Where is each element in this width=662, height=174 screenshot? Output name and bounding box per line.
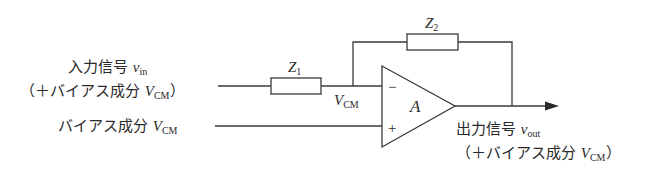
output-bias-prefix: （＋バイアス成分 — [456, 144, 581, 162]
bias-label: バイアス成分 VCM — [58, 117, 178, 136]
svg-text:入力信号 vin: 入力信号 vin — [68, 58, 147, 77]
svg-text:バイアス成分 VCM: バイアス成分 VCM — [58, 117, 178, 136]
feedback-right-wire — [458, 42, 512, 106]
input-signal-label: 入力信号 vin （＋バイアス成分 VCM） — [20, 58, 185, 101]
svg-text:（＋バイアス成分 VCM）: （＋バイアス成分 VCM） — [20, 82, 185, 101]
z2-impedance — [407, 34, 458, 50]
input-bias-prefix: （＋バイアス成分 — [20, 82, 145, 100]
z2-label: Z2 — [425, 15, 438, 33]
op-amp-circuit-diagram: 入力信号 vin （＋バイアス成分 VCM） バイアス成分 VCM Z1 Z2 … — [0, 0, 662, 174]
svg-text:出力信号 vout: 出力信号 vout — [456, 120, 540, 139]
svg-text:（＋バイアス成分 VCM）: （＋バイアス成分 VCM） — [456, 144, 621, 163]
z1-impedance — [271, 78, 321, 94]
output-arrow-icon — [545, 102, 559, 111]
z1-label: Z1 — [288, 59, 301, 77]
output-signal-label: 出力信号 vout （＋バイアス成分 VCM） — [456, 120, 621, 163]
node-vcm-label: VCM — [334, 92, 359, 110]
output-signal-text: 出力信号 — [456, 120, 521, 138]
bias-text: バイアス成分 — [58, 117, 153, 135]
plus-input-symbol: + — [388, 120, 396, 136]
input-signal-text: 入力信号 — [68, 58, 133, 76]
minus-input-symbol: − — [388, 79, 396, 95]
amp-gain-label: A — [409, 97, 421, 116]
